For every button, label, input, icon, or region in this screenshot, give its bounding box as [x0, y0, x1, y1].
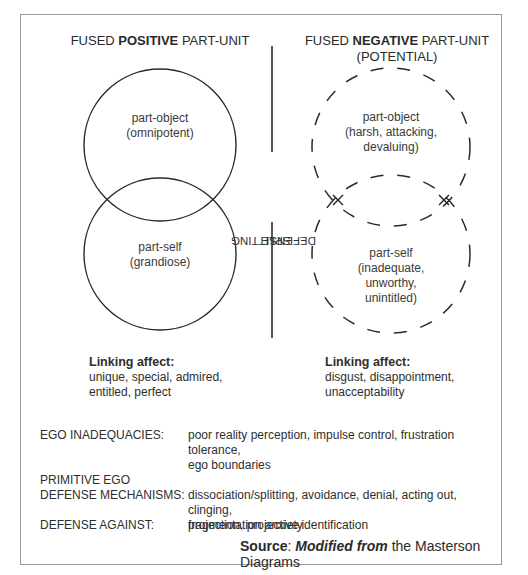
part-object-label: part-object (omnipotent)	[100, 111, 220, 141]
linking-affect-title: Linking affect:	[325, 355, 505, 370]
ego-row-defense-against: DEFENSE AGAINST: fragmentation anxiety	[40, 518, 488, 533]
positive-circles	[84, 69, 236, 330]
ego-row-value: poor reality perception, impulse control…	[188, 428, 488, 473]
ego-row-label: EGO INADEQUACIES:	[40, 428, 188, 473]
linking-affect-title: Linking affect:	[89, 355, 269, 370]
splitting-defense-label: SPLITTING DEFENSE	[255, 196, 295, 286]
ego-table: EGO INADEQUACIES: poor reality perceptio…	[40, 428, 488, 533]
source-caption: Source: Modified from the Masterson Diag…	[240, 538, 528, 570]
ego-row-value: fragmentation anxiety	[188, 518, 488, 533]
part-self-label: part-self (grandiose)	[100, 240, 220, 270]
positive-linking-affect: Linking affect: unique, special, admired…	[89, 355, 269, 400]
x-mark-icon	[333, 195, 343, 205]
ego-row-label: DEFENSE AGAINST:	[40, 518, 188, 533]
x-mark-icon	[439, 195, 449, 205]
neg-part-object-label: part-object (harsh, attacking, devaluing…	[321, 110, 461, 155]
negative-linking-affect: Linking affect: disgust, disappointment,…	[325, 355, 505, 400]
part-object-circle	[84, 69, 236, 221]
neg-part-self-label: part-self (inadequate, unworthy, unintit…	[321, 246, 461, 306]
x-marks	[333, 195, 449, 205]
ego-row-inadequacies: EGO INADEQUACIES: poor reality perceptio…	[40, 428, 488, 473]
